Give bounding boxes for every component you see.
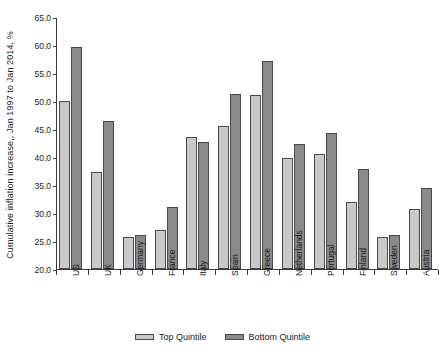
y-axis-tick-mark <box>53 18 57 19</box>
x-axis-tick-mark <box>56 270 57 275</box>
x-axis-tick-mark <box>279 270 280 275</box>
x-axis-tick-mark <box>247 270 248 275</box>
bar-group <box>57 18 89 269</box>
x-axis-tick-label-text: Finland <box>358 248 368 276</box>
y-axis-tick-mark <box>53 186 57 187</box>
x-axis-tick-label-text: France <box>167 250 177 276</box>
bar-top-quintile <box>409 209 420 269</box>
bar-top-quintile <box>282 158 293 269</box>
y-axis-tick-label: 45.0 <box>34 126 51 135</box>
x-axis-tick-mark <box>152 270 153 275</box>
legend-label: Top Quintile <box>159 332 207 342</box>
y-axis-tick-mark <box>53 46 57 47</box>
x-axis-tick-mark <box>311 270 312 275</box>
y-axis-tick-label: 60.0 <box>34 42 51 51</box>
y-axis-tick-label: 50.0 <box>34 98 51 107</box>
bar-group <box>375 18 407 269</box>
x-axis-tick-labels: USUKGermanyFranceItalySpainGreeceNetherl… <box>56 276 438 326</box>
plot-area <box>56 18 438 270</box>
bar-top-quintile <box>250 95 261 269</box>
legend-swatch-bottom-q <box>225 334 244 340</box>
y-axis-tick-labels: 65.060.055.050.045.040.035.030.025.020.0 <box>18 18 54 270</box>
bar-top-quintile <box>59 101 70 269</box>
y-axis-tick-label: 35.0 <box>34 182 51 191</box>
bar-top-quintile <box>346 202 357 269</box>
bar-bottom-quintile <box>71 47 82 269</box>
y-axis-tick-mark <box>53 242 57 243</box>
y-axis-tick-mark <box>53 214 57 215</box>
x-axis-tick-mark <box>406 270 407 275</box>
x-axis-tick-label-text: Italy <box>198 260 208 276</box>
y-axis-tick-label: 40.0 <box>34 154 51 163</box>
bar-top-quintile <box>377 237 388 269</box>
x-axis-tick-label: Italy <box>187 276 201 286</box>
bar-group <box>153 18 185 269</box>
bar-group <box>407 18 439 269</box>
legend-label: Bottom Quintile <box>249 332 311 342</box>
x-axis-tick-label: Portugal <box>315 276 329 286</box>
x-axis-tick-label-text: Austria <box>421 250 431 276</box>
bar-group <box>89 18 121 269</box>
x-axis-tick-mark <box>120 270 121 275</box>
y-axis-tick-label: 20.0 <box>34 266 51 275</box>
bar-group <box>216 18 248 269</box>
y-axis-tick-mark <box>53 74 57 75</box>
legend-swatch-top-q <box>135 334 154 340</box>
x-axis-tick-label: Germany <box>124 276 138 286</box>
bar-bottom-quintile <box>230 94 241 269</box>
bar-top-quintile <box>155 230 166 269</box>
y-axis-tick-label: 65.0 <box>34 14 51 23</box>
bar-top-quintile <box>186 137 197 269</box>
y-axis-title: Cumulative inflation increase,, Jan 1997… <box>2 0 18 290</box>
bar-group <box>184 18 216 269</box>
bar-top-quintile <box>218 126 229 269</box>
y-axis-tick-mark <box>53 130 57 131</box>
bar-top-quintile <box>91 172 102 269</box>
bar-group <box>344 18 376 269</box>
bar-group <box>312 18 344 269</box>
x-axis-tick-label: UK <box>92 276 106 286</box>
x-axis-tick-label-text: Germany <box>135 241 145 276</box>
x-axis-tick-label: US <box>60 276 74 286</box>
bars-layer <box>57 18 438 269</box>
x-axis-tick-mark <box>183 270 184 275</box>
bar-top-quintile <box>123 237 134 269</box>
bar-bottom-quintile <box>262 61 273 269</box>
chart-legend: Top QuintileBottom Quintile <box>0 332 445 342</box>
legend-entry[interactable]: Top Quintile <box>135 332 207 342</box>
x-axis-tick-label-text: Sweden <box>389 245 399 276</box>
x-axis-tick-label-text: US <box>71 264 81 276</box>
x-axis-tick-label: Netherlands <box>283 276 297 286</box>
bar-top-quintile <box>314 154 325 269</box>
x-axis-tick-label: Sweden <box>378 276 392 286</box>
x-axis-tick-label: Greece <box>251 276 265 286</box>
bar-group <box>121 18 153 269</box>
bar-chart: Cumulative inflation increase,, Jan 1997… <box>0 0 445 354</box>
bar-bottom-quintile <box>198 142 209 269</box>
x-axis-tick-label-text: UK <box>103 264 113 276</box>
x-axis-tick-label-text: Portugal <box>326 244 336 276</box>
y-axis-tick-label: 25.0 <box>34 238 51 247</box>
x-axis-tick-label-text: Greece <box>262 248 272 276</box>
y-axis-tick-label: 30.0 <box>34 210 51 219</box>
x-axis-tick-label-text: Netherlands <box>294 230 304 276</box>
x-axis-tick-mark <box>374 270 375 275</box>
x-axis-tick-mark <box>88 270 89 275</box>
x-axis-tick-mark <box>343 270 344 275</box>
y-axis-title-text: Cumulative inflation increase,, Jan 1997… <box>5 31 15 259</box>
y-axis-tick-mark <box>53 102 57 103</box>
x-axis-tick-label-text: Spain <box>230 254 240 276</box>
x-axis-tick-label: Austria <box>410 276 424 286</box>
x-axis-tick-mark <box>215 270 216 275</box>
bar-bottom-quintile <box>103 121 114 269</box>
x-axis-tick-mark <box>438 270 439 275</box>
x-axis-tick-label: Spain <box>219 276 233 286</box>
x-axis-tick-label: Finland <box>347 276 361 286</box>
y-axis-tick-label: 55.0 <box>34 70 51 79</box>
x-axis-tick-label: France <box>156 276 170 286</box>
bar-group <box>248 18 280 269</box>
legend-entry[interactable]: Bottom Quintile <box>225 332 311 342</box>
x-axis-tick-marks <box>56 270 438 275</box>
y-axis-tick-mark <box>53 158 57 159</box>
